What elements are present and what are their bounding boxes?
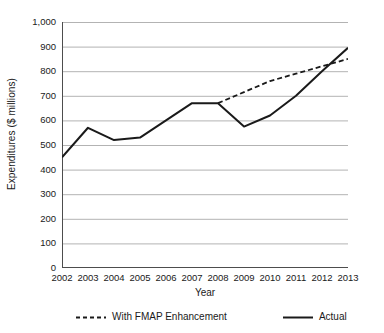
legend-item: Actual [283,311,347,323]
chart-legend: With FMAP EnhancementActual [62,309,362,325]
y-axis-tick-label: 400 [22,165,56,175]
y-axis-tick-label: 500 [22,140,56,150]
y-axis-tick-label: 200 [22,214,56,224]
legend-item: With FMAP Enhancement [76,311,227,323]
x-axis-title: Year [62,286,348,299]
line-chart-figure: Expenditures ($ millions) 1,000900800700… [0,0,384,333]
y-axis-tick-label: 100 [22,238,56,248]
x-axis-tick-label: 2013 [331,272,365,284]
y-axis-title: Expenditures ($ millions) [0,0,22,268]
series-line [62,48,348,157]
y-axis-tick-label: 600 [22,115,56,125]
y-axis-tick-label: 300 [22,189,56,199]
plot-svg [62,22,348,268]
y-axis-tick-label: 900 [22,42,56,52]
solid-line-icon [283,312,313,322]
legend-label: Actual [319,311,347,323]
y-axis-tick-label: 1,000 [22,17,56,27]
plot-area [62,22,348,268]
x-axis-tick-labels: 2002200320042005200620072008200920102011… [62,272,348,286]
dashed-line-icon [76,312,106,322]
y-axis-tick-label: 800 [22,66,56,76]
legend-label: With FMAP Enhancement [112,311,227,323]
y-axis-tick-label: 700 [22,91,56,101]
